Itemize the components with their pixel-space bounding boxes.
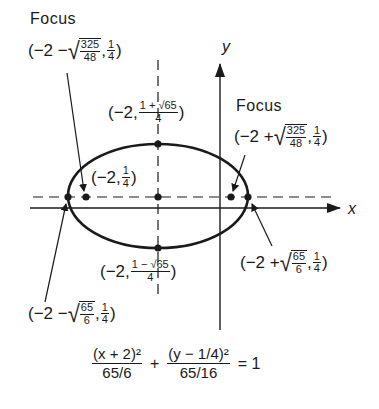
left-vertex-arrow (45, 204, 66, 302)
term1-denominator: 65/6 (101, 364, 132, 382)
center-label: (−2, 14 ) (91, 165, 137, 189)
ellipse-equation: (x + 2)² 65/6 + (y − 1/4)² 65/16 = 1 (88, 345, 264, 382)
top-vertex-point (154, 140, 161, 147)
sqrt-symbol: √ 32548 (274, 124, 307, 149)
term2-numerator: (y − 1/4)² (167, 345, 229, 364)
right-vertex-arrow (252, 204, 272, 246)
center-num: 1 (122, 165, 130, 178)
left-focus-sep: , (101, 42, 106, 59)
left-vertex-y-den: 4 (101, 314, 109, 326)
term1-numerator: (x + 2)² (92, 345, 142, 364)
bottom-vertex-label: (−2, 1 − √654 ) (100, 259, 176, 283)
left-vertex-rad-den: 6 (83, 315, 91, 327)
center-suffix: ) (131, 169, 137, 186)
center-den: 4 (122, 178, 130, 190)
term2-denominator: 65/16 (179, 364, 219, 382)
bottom-vertex-den: 4 (146, 272, 154, 284)
right-focus-arrow (233, 155, 245, 191)
center-prefix: (−2, (91, 169, 121, 186)
left-focus-label: (−2 − √ 32548 , 14 ) (28, 38, 122, 63)
top-vertex-num: 1 + √65 (139, 100, 178, 113)
left-focus-title: Focus (30, 10, 76, 28)
center-point (154, 193, 161, 200)
right-vertex-y-den: 4 (313, 263, 321, 275)
left-focus-prefix: (−2 − (28, 42, 68, 59)
bottom-vertex-prefix: (−2, (100, 263, 130, 280)
top-vertex-den: 4 (154, 113, 162, 125)
left-focus-rad-den: 48 (83, 52, 97, 64)
bottom-vertex-suffix: ) (171, 263, 177, 280)
equation-term2: (y − 1/4)² 65/16 (167, 345, 229, 382)
left-focus-rad-num: 325 (80, 39, 100, 52)
left-vertex-suffix: ) (110, 305, 116, 322)
right-focus-rad-num: 325 (286, 125, 306, 138)
left-vertex-point (64, 193, 71, 200)
right-vertex-rad-num: 65 (292, 251, 306, 264)
left-focus-y-den: 4 (107, 51, 115, 63)
sqrt-symbol: √ 656 (280, 250, 307, 275)
right-focus-point (227, 193, 234, 200)
left-vertex-sep: , (95, 305, 100, 322)
right-focus-y-den: 4 (313, 137, 321, 149)
left-vertex-label: (−2 − √ 656 , 14 ) (28, 301, 116, 326)
y-axis-label: y (222, 38, 230, 56)
x-axis-label: x (348, 200, 356, 218)
right-focus-sep: , (307, 128, 312, 145)
right-vertex-prefix: (−2 + (240, 254, 280, 271)
bottom-vertex-point (154, 244, 161, 251)
top-vertex-label: (−2, 1 + √654 ) (108, 100, 184, 124)
right-focus-prefix: (−2 + (234, 128, 274, 145)
right-focus-rad-den: 48 (289, 138, 303, 150)
left-focus-point (82, 193, 89, 200)
top-vertex-suffix: ) (179, 104, 185, 121)
sqrt-symbol: √ 32548 (68, 38, 101, 63)
right-focus-label: (−2 + √ 32548 , 14 ) (234, 124, 328, 149)
right-focus-suffix: ) (322, 128, 328, 145)
equals-one: = 1 (238, 355, 261, 373)
top-vertex-prefix: (−2, (108, 104, 138, 121)
sqrt-symbol: √ 656 (68, 301, 95, 326)
bottom-vertex-num: 1 − √65 (131, 259, 170, 272)
right-vertex-label: (−2 + √ 656 , 14 ) (240, 250, 328, 275)
right-vertex-sep: , (307, 254, 312, 271)
plus-sign: + (150, 355, 159, 373)
left-vertex-rad-num: 65 (80, 302, 94, 315)
left-vertex-prefix: (−2 − (28, 305, 68, 322)
right-focus-title: Focus (236, 97, 282, 115)
left-focus-suffix: ) (116, 42, 122, 59)
right-vertex-point (244, 193, 251, 200)
equation-term1: (x + 2)² 65/6 (92, 345, 142, 382)
right-vertex-rad-den: 6 (295, 264, 303, 276)
right-vertex-suffix: ) (322, 254, 328, 271)
